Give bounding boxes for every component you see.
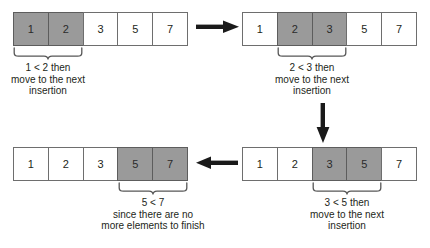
array-cell: 3 — [83, 147, 119, 181]
caption-line: insertion — [264, 85, 360, 97]
array-step-1: 1 2 3 5 7 — [13, 12, 188, 46]
array-cell: 1 — [13, 12, 49, 46]
brace-step-2 — [277, 47, 347, 60]
caption-line: move to the next — [299, 209, 395, 221]
array-cell: 5 — [346, 12, 382, 46]
caption-step-1: 1 < 2 then move to the next insertion — [0, 62, 96, 97]
array-cell: 1 — [242, 147, 278, 181]
brace-step-1 — [13, 47, 83, 60]
caption-line: 2 < 3 then — [264, 62, 360, 74]
array-cell: 5 — [117, 147, 153, 181]
caption-line: since there are no — [85, 209, 221, 221]
caption-line: insertion — [0, 85, 96, 97]
arrow-right-icon — [196, 20, 239, 34]
array-cell: 7 — [381, 147, 417, 181]
brace-step-3 — [312, 182, 382, 195]
array-step-2: 1 2 3 5 7 — [242, 12, 417, 46]
caption-step-4: 5 < 7 since there are no more elements t… — [85, 197, 221, 232]
array-cell: 3 — [312, 12, 348, 46]
caption-line: insertion — [299, 220, 395, 232]
caption-line: 5 < 7 — [85, 197, 221, 209]
array-cell: 1 — [242, 12, 278, 46]
caption-line: 1 < 2 then — [0, 62, 96, 74]
array-cell: 5 — [346, 147, 382, 181]
caption-step-3: 3 < 5 then move to the next insertion — [299, 197, 395, 232]
array-cell: 1 — [13, 147, 49, 181]
caption-line: move to the next — [0, 74, 96, 86]
array-step-3: 1 2 3 5 7 — [242, 147, 417, 181]
array-step-4: 1 2 3 5 7 — [13, 147, 188, 181]
array-cell: 3 — [312, 147, 348, 181]
caption-line: more elements to finish — [85, 220, 221, 232]
array-cell: 7 — [152, 147, 188, 181]
array-cell: 3 — [83, 12, 119, 46]
caption-line: 3 < 5 then — [299, 197, 395, 209]
array-cell: 2 — [48, 12, 84, 46]
array-cell: 5 — [117, 12, 153, 46]
arrow-down-icon — [316, 103, 330, 143]
array-cell: 2 — [277, 12, 313, 46]
caption-line: move to the next — [264, 74, 360, 86]
array-cell: 7 — [381, 12, 417, 46]
diagram-canvas: 1 2 3 5 7 1 < 2 then move to the next in… — [0, 0, 430, 248]
array-cell: 2 — [277, 147, 313, 181]
array-cell: 2 — [48, 147, 84, 181]
brace-step-4 — [118, 182, 188, 195]
array-cell: 7 — [152, 12, 188, 46]
arrow-left-icon — [196, 156, 238, 170]
caption-step-2: 2 < 3 then move to the next insertion — [264, 62, 360, 97]
